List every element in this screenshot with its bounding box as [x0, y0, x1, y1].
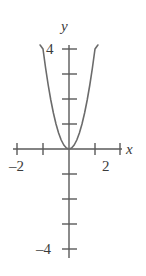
y-tick-label-4: 4 [46, 42, 54, 57]
y-tick-label--4: –4 [36, 242, 51, 257]
x-tick-label--2: –2 [9, 159, 24, 174]
coordinate-plane-svg [0, 0, 146, 276]
y-axis-label: y [61, 19, 68, 34]
graph-figure: y x 4 –4 –2 2 [0, 0, 146, 276]
x-tick-label-2: 2 [102, 159, 110, 174]
x-axis-label: x [126, 142, 133, 157]
